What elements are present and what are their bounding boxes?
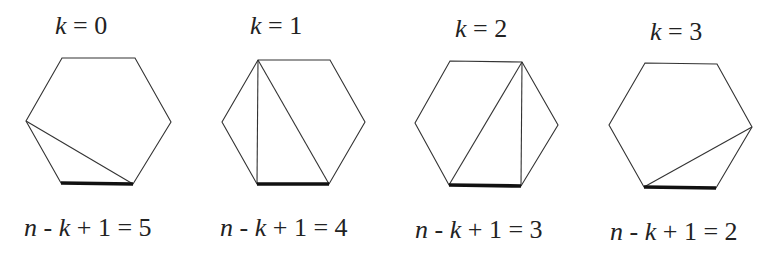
formula-label: n - k + 1 = 3 (415, 215, 543, 244)
panel-k2: k = 2 n - k + 1 = 3 (415, 14, 558, 244)
bold-base-edge (61, 183, 133, 184)
diagonal-line (449, 62, 522, 185)
hexagon (415, 61, 558, 186)
diagonals (449, 62, 522, 186)
diagonal-line (257, 60, 258, 184)
k-label: k = 0 (55, 11, 107, 40)
panel-k0: k = 0 n - k + 1 = 5 (24, 11, 171, 242)
formula-label: n - k + 1 = 4 (220, 213, 348, 242)
diagonal-line (258, 60, 329, 184)
diagonal-line (26, 121, 133, 184)
bold-base-edge (449, 185, 521, 186)
hexagon-triangulation-figure: k = 0 n - k + 1 = 5 k = 1 n - k + 1 = 4 … (0, 0, 775, 254)
k-label: k = 2 (455, 14, 507, 43)
panel-k3: k = 3 n - k + 1 = 2 (609, 17, 752, 246)
k-label: k = 1 (250, 11, 302, 40)
hexagon (26, 58, 171, 184)
bold-base-edge (644, 187, 716, 188)
diagonals (257, 60, 329, 184)
formula-label: n - k + 1 = 5 (24, 213, 152, 242)
diagonals (26, 121, 133, 184)
formula-label: n - k + 1 = 2 (610, 217, 738, 246)
diagonal-line (644, 127, 752, 187)
hexagon (609, 63, 752, 188)
diagonal-line (521, 62, 522, 186)
diagonals (644, 127, 752, 187)
panel-k1: k = 1 n - k + 1 = 4 (220, 11, 365, 242)
k-label: k = 3 (650, 17, 702, 46)
